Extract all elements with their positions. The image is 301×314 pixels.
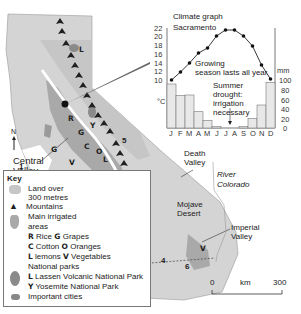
- city-icon: [11, 294, 20, 300]
- label-imperial-1: Imperial: [231, 223, 259, 232]
- crop-C: C: [84, 142, 90, 151]
- label-mojave-2: Desert: [177, 209, 201, 218]
- crop-V: V: [69, 158, 75, 167]
- climate-graph: Climate graph Sacramento: [150, 0, 301, 140]
- key-title: Key: [7, 174, 22, 183]
- scale-end: 300: [273, 278, 286, 287]
- growing-1: Growing: [195, 59, 225, 68]
- park-L: L: [79, 45, 84, 54]
- north-label: N: [11, 127, 16, 136]
- label-death-valley-1: Death: [184, 149, 205, 158]
- label-imperial-2: Valley: [231, 232, 252, 241]
- city-6: 6: [185, 262, 189, 271]
- land-swatch: [9, 185, 21, 194]
- label-death-valley-2: Valley: [184, 158, 205, 167]
- growing-2: season lasts all year: [195, 68, 267, 77]
- drought-3: irrigation: [213, 99, 244, 108]
- drought-4: necessary: [213, 108, 249, 117]
- city-5: 5: [122, 136, 126, 145]
- crop-R: R: [68, 114, 74, 123]
- scale-unit: km: [240, 278, 251, 287]
- city-4: 4: [161, 256, 165, 265]
- label-river-1: River: [217, 170, 236, 179]
- left-unit: °C: [157, 97, 165, 106]
- drought-2: drought:: [213, 90, 242, 99]
- irrigated-swatch: [10, 215, 19, 229]
- crop-L: L: [103, 155, 108, 164]
- scale-start: 0: [210, 278, 214, 287]
- park-swatch: [10, 271, 20, 286]
- crop-G2: G: [51, 145, 57, 154]
- crop-O: O: [96, 147, 102, 156]
- right-unit: mm: [277, 66, 290, 75]
- crop-V2: V: [200, 244, 206, 253]
- drought-1: Summer: [213, 81, 243, 90]
- crop-G: G: [78, 128, 84, 137]
- label-river-2: Colorado: [217, 180, 249, 189]
- label-mojave-1: Mojave: [177, 200, 203, 209]
- mountain-icon: ▲: [9, 202, 18, 211]
- park-Y: Y: [90, 121, 95, 130]
- map-key: Key Land over 300 metres ▲ Mountains Mai…: [3, 170, 151, 307]
